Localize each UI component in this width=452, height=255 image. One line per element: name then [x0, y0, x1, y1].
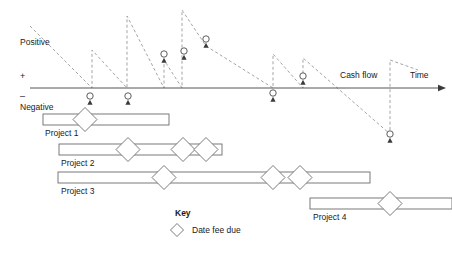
- cashflow-event-negative: [270, 90, 276, 215]
- arrow-up-icon: [270, 97, 275, 102]
- key-title: Key: [175, 208, 191, 218]
- date-fee-due-diamond[interactable]: [116, 138, 140, 162]
- arrow-up-icon: [387, 138, 392, 143]
- project-row: Project 2: [59, 138, 222, 169]
- label-minus-sign: –: [20, 91, 25, 101]
- cash-flow-diagram: Positive + – Negative Cash flow Time Pro…: [0, 0, 452, 255]
- cashflow-event-positive: [203, 36, 209, 215]
- date-fee-due-diamond[interactable]: [171, 138, 195, 162]
- project-bar[interactable]: [58, 172, 370, 183]
- key-legend: Key Date fee due: [171, 208, 241, 237]
- axis-labels: Positive + – Negative Cash flow Time: [20, 37, 429, 112]
- arrow-up-icon: [87, 100, 92, 105]
- event-circle-marker: [181, 48, 187, 54]
- arrow-up-icon: [161, 58, 166, 63]
- project-label: Project 2: [61, 158, 95, 168]
- project-bar[interactable]: [43, 114, 169, 125]
- project-label: Project 3: [61, 186, 95, 196]
- date-fee-due-diamond[interactable]: [288, 166, 312, 190]
- project-row: Project 3: [58, 166, 370, 197]
- label-negative: Negative: [20, 102, 54, 112]
- date-fee-due-diamond[interactable]: [152, 166, 176, 190]
- event-circle-marker: [161, 51, 167, 57]
- date-fee-due-diamond[interactable]: [261, 166, 285, 190]
- arrow-up-icon: [125, 100, 130, 105]
- event-circle-marker: [300, 73, 306, 79]
- project-row: Project 4: [310, 192, 452, 223]
- event-circle-marker: [87, 93, 93, 99]
- event-circle-marker: [270, 90, 276, 96]
- event-circle-marker: [125, 93, 131, 99]
- label-plus-sign: +: [20, 71, 25, 81]
- event-circle-marker: [387, 131, 393, 137]
- date-fee-due-diamond[interactable]: [378, 192, 402, 216]
- axis-arrowhead-icon: [438, 85, 446, 91]
- event-circle-marker: [203, 36, 209, 42]
- date-fee-due-diamond[interactable]: [194, 138, 218, 162]
- label-cash-flow: Cash flow: [340, 70, 378, 80]
- time-axis-group: [30, 85, 446, 91]
- diamond-icon: [171, 224, 184, 237]
- project-row: Project 1: [43, 108, 169, 139]
- key-entry-label: Date fee due: [192, 225, 241, 235]
- arrow-up-icon: [300, 80, 305, 85]
- label-time: Time: [410, 70, 429, 80]
- label-positive: Positive: [20, 37, 50, 47]
- cashflow-event-positive: [300, 73, 306, 215]
- diagram-canvas: Positive + – Negative Cash flow Time Pro…: [0, 0, 452, 255]
- project-label: Project 1: [45, 128, 79, 138]
- project-label: Project 4: [313, 212, 347, 222]
- project-bars-layer: Project 1Project 2Project 3Project 4: [43, 108, 452, 223]
